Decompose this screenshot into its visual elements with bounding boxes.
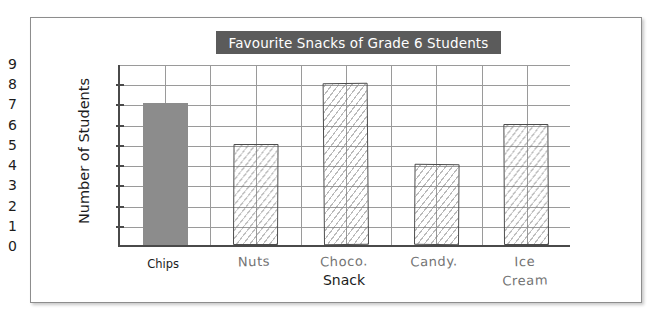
bar-nuts xyxy=(233,144,279,245)
y-tick-label: 9 xyxy=(0,56,17,72)
y-tick-label: 3 xyxy=(0,177,17,193)
bar-candy xyxy=(414,164,460,245)
y-tick-mark xyxy=(116,84,124,86)
x-axis-title: Snack xyxy=(118,272,570,288)
y-tick-mark xyxy=(116,145,124,147)
y-tick-label: 4 xyxy=(0,157,17,173)
y-tick-mark xyxy=(116,125,124,127)
y-tick-label: 0 xyxy=(0,238,17,254)
bar-chips xyxy=(143,103,188,245)
gridline-horizontal xyxy=(120,65,570,66)
bar-choco xyxy=(323,83,369,245)
y-tick-label: 2 xyxy=(0,198,17,214)
gridline-vertical xyxy=(210,65,211,245)
y-tick-label: 5 xyxy=(0,137,17,153)
x-tick-label: Candy. xyxy=(389,252,479,273)
y-tick-label: 8 xyxy=(0,76,17,92)
gridline-vertical xyxy=(391,65,392,245)
y-tick-mark xyxy=(116,104,124,106)
gridline-vertical xyxy=(301,65,302,245)
x-tick-label: Nuts xyxy=(208,252,298,273)
y-tick-mark xyxy=(116,165,124,167)
y-tick-label: 1 xyxy=(0,218,17,234)
plot-area: 0123456789 xyxy=(118,65,570,247)
gridline-vertical xyxy=(482,65,483,245)
chart-title-text: Favourite Snacks of Grade 6 Students xyxy=(229,35,489,51)
chart-title-banner: Favourite Snacks of Grade 6 Students xyxy=(216,31,501,54)
y-tick-label: 7 xyxy=(0,96,17,112)
y-tick-mark xyxy=(116,226,124,228)
y-axis-title: Number of Students xyxy=(76,61,92,241)
bar-ice-cream xyxy=(503,124,549,246)
x-tick-label: Chips xyxy=(118,256,208,273)
y-tick-mark xyxy=(116,206,124,208)
chart-figure-frame: Favourite Snacks of Grade 6 Students Num… xyxy=(30,17,642,303)
x-tick-label: Choco. xyxy=(299,252,389,273)
y-tick-mark xyxy=(116,185,124,187)
y-tick-label: 6 xyxy=(0,117,17,133)
